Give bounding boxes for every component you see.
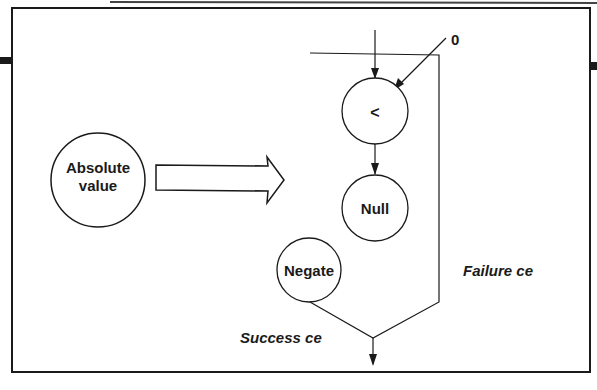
left-tab-marker [0, 57, 12, 64]
absolute-value-label-line1: Absolute [66, 159, 130, 176]
absolute-value-label-line2: value [79, 177, 117, 194]
compare-node-label: < [370, 104, 379, 121]
transform-arrow-icon [156, 157, 284, 203]
negate-node: Negate [277, 238, 341, 302]
success-ce-label: Success ce [240, 329, 322, 346]
constant-zero-label: 0 [451, 31, 459, 48]
diagram-canvas: Absolute value 0 < Null Negate Success c… [0, 0, 597, 390]
negate-node-label: Negate [284, 262, 334, 279]
compare-to-null-arrowhead-icon [371, 163, 379, 175]
compare-node: < [342, 78, 408, 144]
top-edge-line [110, 2, 597, 3]
null-node-label: Null [361, 200, 389, 217]
null-node: Null [342, 175, 408, 241]
absolute-value-node: Absolute value [51, 133, 145, 227]
right-tab-marker [590, 62, 597, 70]
failure-ce-label: Failure ce [463, 262, 533, 279]
input-arrowhead-icon [371, 68, 379, 79]
output-arrowhead-icon [369, 354, 377, 366]
